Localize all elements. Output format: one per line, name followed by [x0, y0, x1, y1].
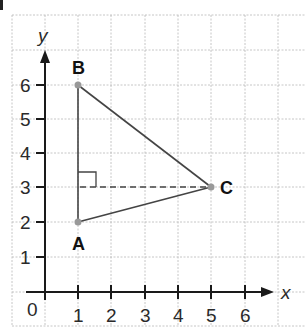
x-tick-label: 5 — [206, 305, 217, 326]
y-tick-label: 3 — [20, 177, 31, 198]
vertex-b — [75, 82, 82, 89]
x-tick-label: 6 — [240, 305, 251, 326]
vertex-a — [75, 219, 82, 226]
right-angle-marker-icon — [78, 172, 96, 187]
x-tick-label: 2 — [106, 305, 117, 326]
coordinate-diagram: y x 0 1 2 3 4 5 6 1 2 3 4 5 6 — [0, 0, 305, 333]
y-axis-label: y — [36, 25, 49, 46]
y-ticks: 1 2 3 4 5 6 — [20, 75, 45, 268]
x-tick-label: 3 — [140, 305, 151, 326]
edge-bc — [78, 85, 211, 187]
label-c: C — [220, 178, 233, 198]
y-axis-arrow-icon — [40, 50, 50, 63]
grid — [12, 15, 305, 326]
edge-ca — [78, 187, 211, 222]
y-tick-label: 5 — [20, 109, 31, 130]
origin-label: 0 — [27, 299, 38, 320]
y-tick-label: 6 — [20, 75, 31, 96]
y-tick-label: 2 — [20, 212, 31, 233]
axes: y x 0 — [26, 25, 292, 320]
x-tick-label: 4 — [173, 305, 184, 326]
y-tick-label: 4 — [20, 143, 31, 164]
vertex-c — [208, 184, 215, 191]
y-tick-label: 1 — [20, 247, 31, 268]
cropped-glyph-fragment — [0, 0, 3, 10]
label-b: B — [72, 58, 85, 78]
triangle-abc: A B C — [72, 58, 233, 254]
x-axis-label: x — [280, 282, 292, 303]
x-axis-arrow-icon — [261, 287, 274, 297]
x-tick-label: 1 — [73, 305, 84, 326]
label-a: A — [72, 234, 85, 254]
